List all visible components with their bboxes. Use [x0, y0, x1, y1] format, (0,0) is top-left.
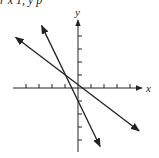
y-axis-label: y [74, 6, 80, 18]
coordinate-plane: x y [0, 0, 159, 158]
line-shallow [16, 37, 140, 131]
x-axis-label: x [145, 82, 151, 94]
plotted-lines [16, 26, 140, 147]
